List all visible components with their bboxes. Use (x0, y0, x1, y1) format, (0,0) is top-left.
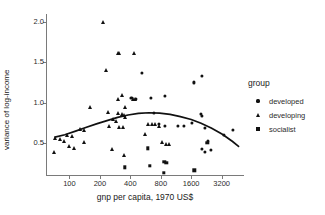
legend-item-label: socialist (269, 125, 296, 134)
data-point-developing (110, 147, 114, 151)
data-point-developing (167, 142, 171, 146)
data-point-socialist (146, 147, 149, 150)
data-point-developing (117, 51, 121, 55)
data-point-developed (140, 71, 143, 74)
y-tick-label: 1.0 (34, 99, 44, 107)
data-point-developed (201, 74, 204, 77)
data-point-developed (203, 151, 206, 154)
x-tick-label: 3200 (213, 180, 230, 188)
data-point-developed (190, 121, 193, 124)
legend-item-label: developed (269, 97, 304, 106)
data-point-developing (132, 51, 136, 55)
data-point-developed (209, 148, 212, 151)
data-point-developing (88, 105, 92, 109)
data-point-developing (107, 124, 111, 128)
data-point-developing (123, 105, 127, 109)
data-point-developing (82, 128, 86, 132)
legend-item-label: developing (269, 111, 305, 120)
data-point-developing (67, 144, 71, 148)
legend-item-developed[interactable]: developed (252, 94, 322, 108)
triangle-marker-icon (252, 113, 264, 117)
data-point-developing (133, 97, 137, 101)
legend-items: developeddevelopingsocialist (252, 94, 322, 136)
x-tick-label: 100 (63, 180, 76, 188)
data-point-developing (72, 146, 76, 150)
data-point-developed (222, 133, 225, 136)
y-axis-title: variance of log-income (2, 70, 11, 150)
x-axis-line (46, 175, 244, 176)
data-point-developing (104, 68, 108, 72)
data-point-socialist (162, 171, 165, 174)
data-point-developed (231, 129, 234, 132)
y-tick-label: 1.5 (34, 58, 44, 66)
circle-marker-icon (252, 99, 264, 102)
y-tick-label: 2.0 (34, 18, 44, 26)
square-marker-icon (252, 127, 264, 130)
data-point-socialist (123, 166, 126, 169)
data-point-developed (149, 96, 152, 99)
y-tick-label: 0.5 (34, 139, 44, 147)
legend-title: group (248, 78, 322, 88)
plot-panel (47, 14, 243, 175)
data-point-developing (53, 136, 57, 140)
data-point-developing (62, 139, 66, 143)
x-tick-label: 1600 (183, 180, 200, 188)
data-point-developing (65, 133, 69, 137)
chart-figure: variance of log-income 0.51.01.52.010020… (0, 0, 325, 215)
x-tick-label: 800 (155, 180, 168, 188)
data-point-developing (123, 115, 127, 119)
data-point-developing (122, 153, 126, 157)
data-point-socialist (205, 141, 208, 144)
data-point-developing (70, 134, 74, 138)
data-point-developed (153, 111, 156, 114)
data-point-developing (157, 124, 161, 128)
data-point-socialist (148, 164, 151, 167)
data-point-developed (176, 125, 179, 128)
data-point-developing (52, 150, 56, 154)
data-point-developing (106, 110, 110, 114)
data-point-developed (182, 124, 185, 127)
x-axis-title: gnp per capita, 1970 US$ (47, 192, 243, 202)
data-point-developing (120, 93, 124, 97)
legend-item-socialist[interactable]: socialist (252, 122, 322, 136)
data-point-developed (200, 114, 203, 117)
data-point-developing (160, 140, 164, 144)
data-point-developed (203, 126, 206, 129)
data-point-developing (82, 140, 86, 144)
legend: group developeddevelopingsocialist (252, 78, 322, 136)
data-point-developed (163, 95, 166, 98)
data-point-developing (114, 119, 118, 123)
data-point-socialist (164, 161, 167, 164)
legend-item-developing[interactable]: developing (252, 108, 322, 122)
data-point-developed (192, 81, 195, 84)
data-point-developing (121, 125, 125, 129)
x-tick-label: 400 (124, 180, 137, 188)
x-tick-label: 200 (94, 180, 107, 188)
data-point-developing (143, 132, 147, 136)
data-point-developing (116, 97, 120, 101)
data-point-developed (163, 124, 166, 127)
data-point-developing (101, 20, 105, 24)
data-point-socialist (193, 168, 196, 171)
